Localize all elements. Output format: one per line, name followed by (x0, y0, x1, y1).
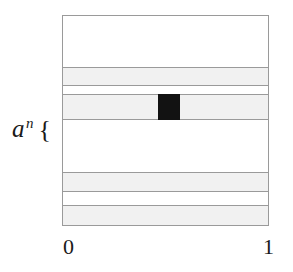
shaded-band-3 (63, 172, 268, 192)
filled-cell-1 (158, 94, 180, 120)
row-label-base: a (12, 116, 25, 141)
x-axis-tick-label-1: 1 (263, 236, 274, 258)
interval-band-figure: a n { 0 1 (0, 0, 293, 272)
row-label-exponent: n (26, 116, 34, 131)
row-label-brace: { (39, 117, 51, 143)
plot-box (62, 15, 269, 226)
x-axis-tick-label-0: 0 (63, 236, 74, 258)
row-label-a-power-n: a n { (12, 116, 51, 142)
shaded-band-4 (63, 205, 268, 226)
shaded-band-1 (63, 67, 268, 86)
